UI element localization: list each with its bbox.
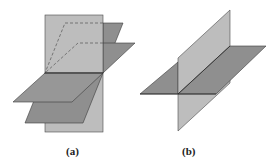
panel-b (140, 10, 266, 131)
figure-canvas (0, 0, 278, 166)
tilted-plane-2-back (103, 43, 135, 73)
caption-b: (b) (182, 145, 195, 157)
panel-a (13, 15, 135, 132)
caption-a: (a) (66, 145, 79, 157)
horizontal-plane-back (140, 62, 178, 94)
